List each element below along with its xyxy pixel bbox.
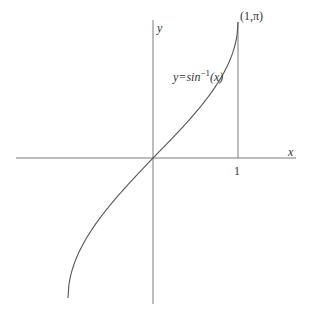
y-axis-label: y bbox=[156, 21, 163, 35]
x-tick-1: 1 bbox=[234, 164, 240, 178]
arcsin-chart: y x 1 (1,π) y=sin−1(x) bbox=[0, 0, 310, 314]
x-axis-label: x bbox=[287, 145, 294, 159]
curve-label: y=sin−1(x) bbox=[172, 68, 223, 84]
point-label: (1,π) bbox=[240, 9, 263, 23]
